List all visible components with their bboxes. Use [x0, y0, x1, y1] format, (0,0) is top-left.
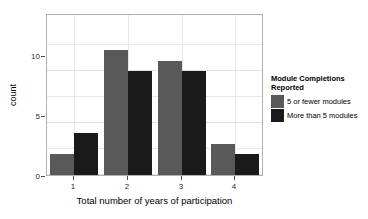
- legend-item[interactable]: More than 5 modules: [271, 109, 366, 122]
- x-tick-mark: [234, 176, 235, 180]
- x-tick-mark: [127, 176, 128, 180]
- bar: [74, 133, 98, 175]
- x-tick-label: 3: [171, 182, 191, 191]
- y-tick-label: 5: [36, 112, 40, 121]
- legend-swatch-icon: [271, 95, 284, 108]
- bar: [235, 154, 259, 175]
- legend-title: Module Completions Reported: [271, 74, 366, 92]
- bar-chart: count 0 5 10: [0, 0, 368, 219]
- bar: [182, 71, 206, 175]
- bar: [158, 61, 182, 175]
- legend-item-label: 5 or fewer modules: [287, 97, 351, 106]
- y-tick-mark: [41, 56, 45, 57]
- bar: [211, 144, 235, 175]
- x-axis-title: Total number of years of participation: [46, 195, 263, 206]
- legend-item-label: More than 5 modules: [287, 111, 357, 120]
- y-tick-mark: [41, 176, 45, 177]
- x-tick-mark: [181, 176, 182, 180]
- bar: [104, 50, 128, 175]
- bar-series-group: [47, 15, 262, 175]
- legend-swatch-icon: [271, 109, 284, 122]
- x-tick-label: 4: [224, 182, 244, 191]
- legend-item[interactable]: 5 or fewer modules: [271, 95, 366, 108]
- x-tick-label: 1: [63, 182, 83, 191]
- y-tick-label: 10: [31, 52, 40, 61]
- x-tick-mark: [73, 176, 74, 180]
- bar: [50, 154, 74, 175]
- y-tick-mark: [41, 116, 45, 117]
- x-tick-label: 2: [117, 182, 137, 191]
- plot-panel: [46, 14, 263, 176]
- bar: [128, 71, 152, 175]
- y-axis-ticks: 0 5 10: [18, 0, 40, 219]
- y-tick-label: 0: [36, 172, 40, 181]
- legend: Module Completions Reported 5 or fewer m…: [271, 74, 366, 123]
